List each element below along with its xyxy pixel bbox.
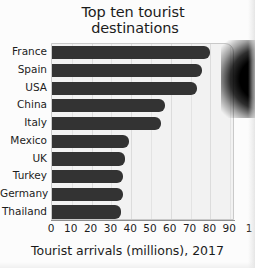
bar [52,170,123,183]
y-axis-label: UK [0,152,47,164]
x-axis-tick: 30 [104,222,117,235]
bar-row [52,44,233,62]
x-axis-tick: 50 [143,222,156,235]
bar-row [52,62,233,80]
chart-title: Top ten tourist destinations [28,4,238,36]
bar-series [52,44,233,219]
x-axis-line [51,220,235,221]
plot-area [51,43,234,220]
bar-row [52,186,233,204]
bar [52,46,210,59]
x-axis-tick: 20 [84,222,97,235]
bar-row [52,79,233,97]
x-axis-tick: 10 [64,222,77,235]
x-axis-tick: 0 [48,222,55,235]
y-axis-label: Mexico [0,134,47,146]
bar-chart-figure: Top ten tourist destinations FranceSpain… [0,0,255,268]
x-axis-tick: 1 [246,222,253,235]
y-axis-label: Spain [0,63,47,75]
bar [52,117,161,130]
page-bottom-edge-shading [0,262,255,268]
bar-row [52,133,233,151]
y-axis-label: Germany [0,187,47,199]
bar [52,82,197,95]
chart-title-line-1: Top ten tourist [28,4,238,20]
x-axis-tick: 90 [223,222,236,235]
y-axis-label: Italy [0,116,47,128]
bar-row [52,115,233,133]
y-axis-label: USA [0,81,47,93]
y-axis-label: China [0,98,47,110]
x-axis-tick: 80 [203,222,216,235]
bar [52,99,165,112]
x-axis-tick: 40 [124,222,137,235]
x-axis-tick: 60 [163,222,176,235]
bar [52,188,123,201]
bar [52,152,125,165]
bar [52,64,202,77]
bar [52,205,121,218]
y-axis-label: France [0,45,47,57]
bar-row [52,150,233,168]
chart-title-line-2: destinations [32,20,238,36]
y-axis-label: Thailand [0,205,47,217]
bar-row [52,203,233,220]
y-axis-label: Turkey [0,169,47,181]
y-axis-category-labels: FranceSpainUSAChinaItalyMexicoUKTurkeyGe… [0,43,47,220]
x-axis-label: Tourist arrivals (millions), 2017 [0,243,255,258]
bar [52,135,129,148]
x-axis-tick: 70 [183,222,196,235]
x-axis-tick-labels: 01020304050607080901 [0,222,255,236]
bar-row [52,97,233,115]
bar-row [52,168,233,186]
